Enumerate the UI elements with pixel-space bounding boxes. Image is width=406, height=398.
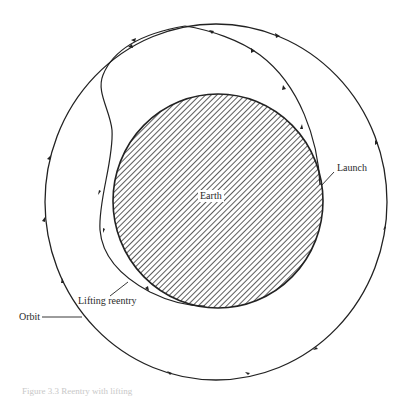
reentry-leader-line (110, 282, 128, 296)
orbit-label: Orbit (19, 312, 40, 322)
earth-label: Earth (198, 190, 224, 202)
launch-leader-line (321, 172, 334, 186)
launch-label: Launch (337, 163, 367, 173)
lifting-reentry-label: Lifting reentry (78, 296, 137, 306)
figure-caption: Figure 3.3 Reentry with lifting (22, 386, 132, 396)
